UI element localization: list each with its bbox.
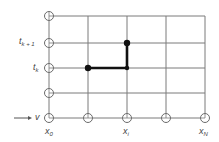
label-t-k: tk bbox=[33, 63, 39, 75]
label-v: v bbox=[35, 113, 40, 122]
label-x-0: x0 bbox=[45, 127, 53, 139]
label-text: v bbox=[35, 112, 40, 122]
label-subscript: i bbox=[128, 131, 129, 137]
label-x-i: xi bbox=[123, 127, 129, 139]
label-subscript: 0 bbox=[50, 131, 53, 137]
stencil-path bbox=[88, 43, 127, 68]
label-subscript: N bbox=[204, 131, 208, 137]
highlight-path bbox=[85, 40, 130, 71]
label-x-N: xN bbox=[199, 127, 208, 139]
label-subscript: k bbox=[36, 67, 39, 73]
stencil-dot-icon bbox=[85, 65, 91, 71]
stencil-dot-icon bbox=[124, 40, 130, 46]
arrow-right-icon bbox=[28, 116, 32, 120]
label-t-k-plus-1: tk + 1 bbox=[19, 37, 35, 49]
v-arrow bbox=[14, 116, 32, 120]
label-subscript: k + 1 bbox=[22, 41, 35, 47]
stencil-dot-icon bbox=[125, 66, 129, 70]
